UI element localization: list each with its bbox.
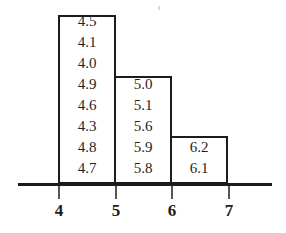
data-value: 5.6	[134, 116, 153, 137]
x-axis-line	[18, 183, 272, 186]
data-value: 4.5	[78, 11, 97, 32]
histogram-bar-bin-4-5: 4.5 4.1 4.0 4.9 4.6 4.3 4.8 4.7	[58, 15, 116, 184]
data-value: 5.8	[134, 158, 153, 179]
bar-values-bin-4-5: 4.5 4.1 4.0 4.9 4.6 4.3 4.8 4.7	[60, 11, 114, 180]
histogram-bar-bin-5-6: 5.0 5.1 5.6 5.9 5.8	[114, 76, 172, 184]
x-axis-label-4: 4	[45, 200, 73, 222]
histogram-bar-bin-6-7: 6.2 6.1	[170, 136, 228, 184]
data-value: 4.6	[78, 95, 97, 116]
data-value: 4.9	[78, 74, 97, 95]
bar-values-bin-5-6: 5.0 5.1 5.6 5.9 5.8	[116, 74, 170, 180]
data-value: 5.1	[134, 95, 153, 116]
x-axis-label-6: 6	[158, 200, 186, 222]
x-axis-label-7: 7	[215, 200, 243, 222]
data-value: 4.7	[78, 158, 97, 179]
data-value: 5.0	[134, 74, 153, 95]
data-value: 6.1	[190, 158, 209, 179]
data-value: 5.9	[134, 137, 153, 158]
data-value: 6.2	[190, 137, 209, 158]
data-value: 4.1	[78, 32, 97, 53]
x-axis-tick-6	[171, 186, 173, 199]
x-axis-tick-5	[115, 186, 117, 199]
bar-values-bin-6-7: 6.2 6.1	[172, 137, 226, 180]
histogram-figure: 4.5 4.1 4.0 4.9 4.6 4.3 4.8 4.7 5.0 5.1 …	[0, 0, 286, 233]
data-value: 4.3	[78, 116, 97, 137]
scan-speck-artifact	[158, 6, 160, 10]
data-value: 4.0	[78, 53, 97, 74]
x-axis-label-5: 5	[102, 200, 130, 222]
x-axis-tick-4	[58, 186, 60, 199]
x-axis-tick-7	[228, 186, 230, 199]
data-value: 4.8	[78, 137, 97, 158]
